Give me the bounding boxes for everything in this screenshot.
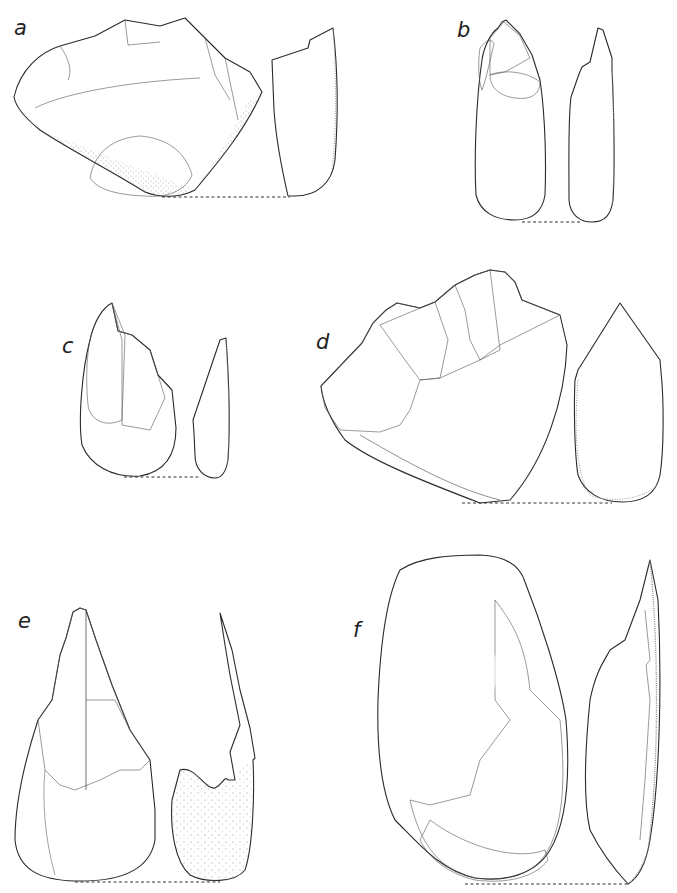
panel-c: c (62, 303, 229, 478)
artifact-c-section (193, 338, 229, 478)
artifact-b-face (475, 20, 545, 220)
panel-label-b: b (457, 18, 470, 42)
artifact-a-section (272, 28, 337, 196)
panel-a: a (14, 16, 337, 197)
panel-label-a: a (14, 16, 27, 40)
artifact-a-face (14, 18, 262, 196)
panel-label-f: f (353, 618, 364, 642)
panel-f: f (353, 555, 660, 884)
artifact-e-face (15, 608, 155, 881)
artifact-b-section (569, 28, 614, 222)
panel-d: d (316, 270, 663, 503)
panel-label-e: e (18, 609, 31, 633)
artifact-e-section (172, 613, 255, 880)
panel-e: e (15, 608, 255, 882)
artifact-f-section (585, 560, 659, 884)
panel-label-d: d (316, 330, 330, 354)
artifact-plate: a b c (0, 0, 677, 893)
artifact-d-face (321, 270, 567, 503)
panel-label-c: c (62, 334, 74, 358)
artifact-f-face (378, 555, 568, 881)
artifact-c-face (80, 303, 176, 476)
artifact-d-section (574, 303, 663, 502)
panel-b: b (457, 18, 614, 222)
